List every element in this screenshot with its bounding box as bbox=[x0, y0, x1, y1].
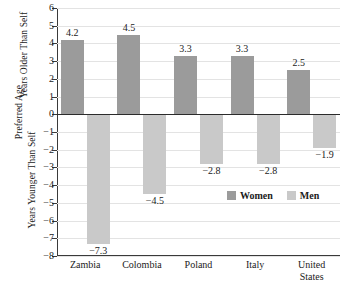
y-axis-tick-label: −1 bbox=[43, 125, 54, 138]
legend-swatch-women bbox=[227, 191, 236, 200]
bar-women-poland[interactable] bbox=[174, 56, 197, 114]
legend-item-women: Women bbox=[227, 190, 273, 201]
y-axis-tick-label: 3 bbox=[49, 54, 54, 67]
plot-area: 6543210−1−2−3−4−5−6−7−84.2−7.34.5−4.53.3… bbox=[57, 8, 340, 256]
y-axis-tick-label: 1 bbox=[49, 90, 54, 103]
legend-label-women: Women bbox=[240, 190, 273, 201]
y-axis-tick-label: −7 bbox=[43, 231, 54, 244]
bar-value-label: 4.5 bbox=[109, 22, 148, 34]
bar-value-label: 3.3 bbox=[166, 43, 205, 55]
bar-value-label: 4.2 bbox=[53, 27, 92, 39]
y-axis-tick-label: −6 bbox=[43, 214, 54, 227]
bar-women-zambia[interactable] bbox=[61, 40, 84, 114]
y-axis-title-upper: Years Older Than Self bbox=[19, 5, 29, 105]
x-axis-category-label: Colombia bbox=[114, 259, 171, 271]
y-axis-tick-label: −2 bbox=[43, 143, 54, 156]
y-axis-tick-label: −5 bbox=[43, 196, 54, 209]
bar-value-label: −2.8 bbox=[249, 165, 288, 177]
y-axis-tick-label: 0 bbox=[49, 107, 54, 120]
legend-label-men: Men bbox=[300, 190, 319, 201]
bar-men-colombia[interactable] bbox=[143, 114, 166, 194]
x-axis-category-label: Poland bbox=[170, 259, 227, 271]
bar-men-poland[interactable] bbox=[200, 114, 223, 164]
x-axis-category-label: Italy bbox=[227, 259, 284, 271]
bar-value-label: −4.5 bbox=[135, 195, 174, 207]
bar-value-label: 3.3 bbox=[223, 43, 262, 55]
gridline bbox=[57, 8, 340, 9]
zero-line bbox=[57, 114, 340, 115]
y-axis-tick-label: 6 bbox=[49, 1, 54, 14]
bar-men-zambia[interactable] bbox=[87, 114, 110, 243]
gridline bbox=[57, 26, 340, 27]
bar-men-italy[interactable] bbox=[257, 114, 280, 164]
chart-legend: Women Men bbox=[227, 190, 319, 201]
legend-swatch-men bbox=[287, 191, 296, 200]
y-axis-tick-label: −3 bbox=[43, 160, 54, 173]
y-axis-tick-label: −8 bbox=[43, 249, 54, 262]
y-axis-tick-label: 2 bbox=[49, 72, 54, 85]
bar-value-label: 2.5 bbox=[279, 57, 318, 69]
bar-women-italy[interactable] bbox=[231, 56, 254, 114]
bar-value-label: −2.8 bbox=[192, 165, 231, 177]
x-axis-category-label: United States bbox=[283, 259, 340, 283]
bar-value-label: −1.9 bbox=[305, 149, 344, 161]
bar-women-colombia[interactable] bbox=[117, 35, 140, 115]
y-axis-tick-label: −4 bbox=[43, 178, 54, 191]
bar-value-label: −7.3 bbox=[79, 245, 118, 257]
x-axis-category-label: Zambia bbox=[57, 259, 114, 271]
y-axis-title-lower: Years Younger Than Self bbox=[27, 121, 37, 239]
bar-men-united-states[interactable] bbox=[313, 114, 336, 148]
bar-women-united-states[interactable] bbox=[287, 70, 310, 114]
bar-chart: Preferred Age Years Older Than Self Year… bbox=[0, 0, 345, 289]
legend-item-men: Men bbox=[287, 190, 319, 201]
